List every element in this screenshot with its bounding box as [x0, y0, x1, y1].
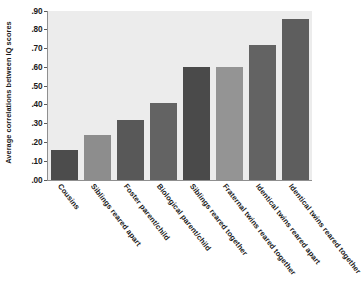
y-axis-tick: .50 — [31, 81, 48, 91]
y-axis-tick-label: .80 — [31, 25, 42, 34]
y-axis-title: Average correlations between IQ scores — [0, 0, 16, 185]
y-axis: .90.80.70.60.50.40.30.20.10.00 — [16, 0, 48, 188]
bar — [150, 103, 176, 180]
y-axis-tick-label: .50 — [31, 82, 42, 91]
x-axis-label: Siblings reared together — [188, 182, 250, 257]
y-axis-tick-label: .60 — [31, 63, 42, 72]
y-axis-tick-label: .10 — [31, 157, 42, 166]
plot-area — [48, 11, 312, 180]
y-axis-tick: .70 — [31, 44, 48, 54]
bar — [282, 19, 308, 180]
y-axis-tick: .90 — [31, 6, 48, 16]
y-axis-tick-label: .70 — [31, 44, 42, 53]
bar — [117, 120, 143, 180]
y-axis-tick: .30 — [31, 119, 48, 129]
x-axis-line — [47, 180, 312, 181]
y-axis-tick: .80 — [31, 25, 48, 35]
bar — [216, 67, 242, 180]
x-axis-labels: CousinsSiblings reared apartFoster paren… — [48, 182, 364, 288]
bar-chart: Average correlations between IQ scores .… — [0, 0, 364, 288]
y-axis-tick-label: .00 — [31, 176, 42, 185]
y-axis-tick-label: .90 — [31, 7, 42, 16]
y-axis-tick: .00 — [31, 175, 48, 185]
y-axis-tick-label: .40 — [31, 100, 42, 109]
y-axis-tick-label: .30 — [31, 119, 42, 128]
y-axis-tick: .10 — [31, 156, 48, 166]
y-axis-tick: .40 — [31, 100, 48, 110]
bar — [183, 67, 209, 180]
x-axis-label: Identical twins reared together — [287, 182, 363, 276]
x-axis-label: Identical twins reared apart — [254, 182, 322, 266]
y-axis-tick: .60 — [31, 62, 48, 72]
y-axis-tick: .20 — [31, 137, 48, 147]
bar — [51, 150, 77, 180]
bar — [84, 135, 110, 180]
y-axis-tick-label: .20 — [31, 138, 42, 147]
y-axis-title-label: Average correlations between IQ scores — [4, 21, 13, 164]
x-axis-label: Cousins — [56, 182, 82, 211]
bar — [249, 45, 275, 180]
